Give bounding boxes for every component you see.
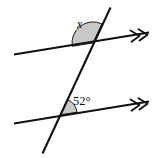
angle-x-label: x — [76, 17, 83, 31]
geometry-canvas: x 52° — [0, 0, 152, 158]
angle-52-label: 52° — [73, 94, 91, 108]
geometry-diagram: x 52° — [0, 0, 152, 158]
